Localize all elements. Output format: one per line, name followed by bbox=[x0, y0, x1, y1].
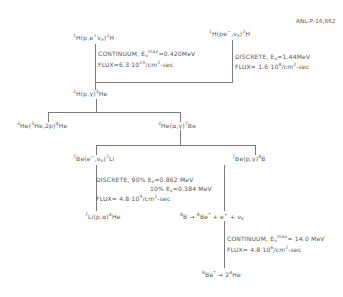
branch-line-b8 bbox=[224, 165, 225, 211]
split-line-3 bbox=[96, 145, 256, 146]
reaction-be7-proton: 7Be(p,γ)8B bbox=[232, 155, 266, 162]
reaction-be7-capture: 7Be(e−,νe)7Li bbox=[73, 155, 114, 162]
reaction-pp: 1H(p,e+νe)2H bbox=[73, 34, 114, 41]
report-id: ANL-P-16,862 bbox=[296, 18, 336, 25]
annotation-pep-energy: DISCRETE, Eν=1.44MeV bbox=[235, 53, 310, 60]
reaction-be8-decay: 8Be* → 24He bbox=[202, 271, 241, 278]
branch-line-li7 bbox=[96, 165, 97, 211]
annotation-pp-flux: FLUX=6.3·1010/cm2-sec bbox=[98, 61, 173, 68]
annotation-b8-energy: CONTINUUM, Eνmax= 14.0 MeV bbox=[227, 235, 325, 242]
reaction-b8-decay: 8B → 8Be* + e+ + νe bbox=[180, 213, 244, 220]
annotation-b8-flux: FLUX= 4.8·106/cm2-sec bbox=[227, 246, 301, 253]
branch-line-pp bbox=[95, 44, 96, 90]
annotation-pep-flux: FLUX= 1.6·108/cm2-sec bbox=[235, 63, 309, 70]
trunk-line-2 bbox=[96, 99, 97, 112]
trunk-line-3 bbox=[180, 130, 181, 145]
merge-line-1 bbox=[95, 82, 233, 83]
annotation-be7-energy-90: DISCRETE, 90% Eν=0.862 MeV bbox=[96, 176, 193, 183]
branch-line-be8 bbox=[224, 221, 225, 268]
branch-line-be7p bbox=[255, 145, 256, 155]
branch-line-be7e bbox=[96, 145, 97, 155]
annotation-pp-energy: CONTINUUM, Eνmax=0.420MeV bbox=[98, 50, 195, 57]
branch-line-he3he4 bbox=[180, 112, 181, 122]
annotation-be7-flux: FLUX= 4.8·109/cm2-sec bbox=[96, 195, 170, 202]
reaction-pep: 1H(pe−,νe)2H bbox=[209, 30, 250, 37]
reaction-deuterium: 2H(p,γ)3He bbox=[73, 90, 107, 97]
reaction-he3-he3: 3He(3He,2p)4He bbox=[17, 122, 67, 129]
reaction-he3-alpha: 3He(α,γ)7Be bbox=[158, 122, 196, 129]
split-line-2 bbox=[48, 112, 181, 113]
annotation-be7-energy-10: 10% Eν=0.384 MeV bbox=[150, 185, 212, 192]
branch-line-pep bbox=[232, 40, 233, 83]
reaction-li7: 7Li(p,α)4He bbox=[85, 213, 121, 220]
branch-line-he3he3 bbox=[48, 112, 49, 122]
